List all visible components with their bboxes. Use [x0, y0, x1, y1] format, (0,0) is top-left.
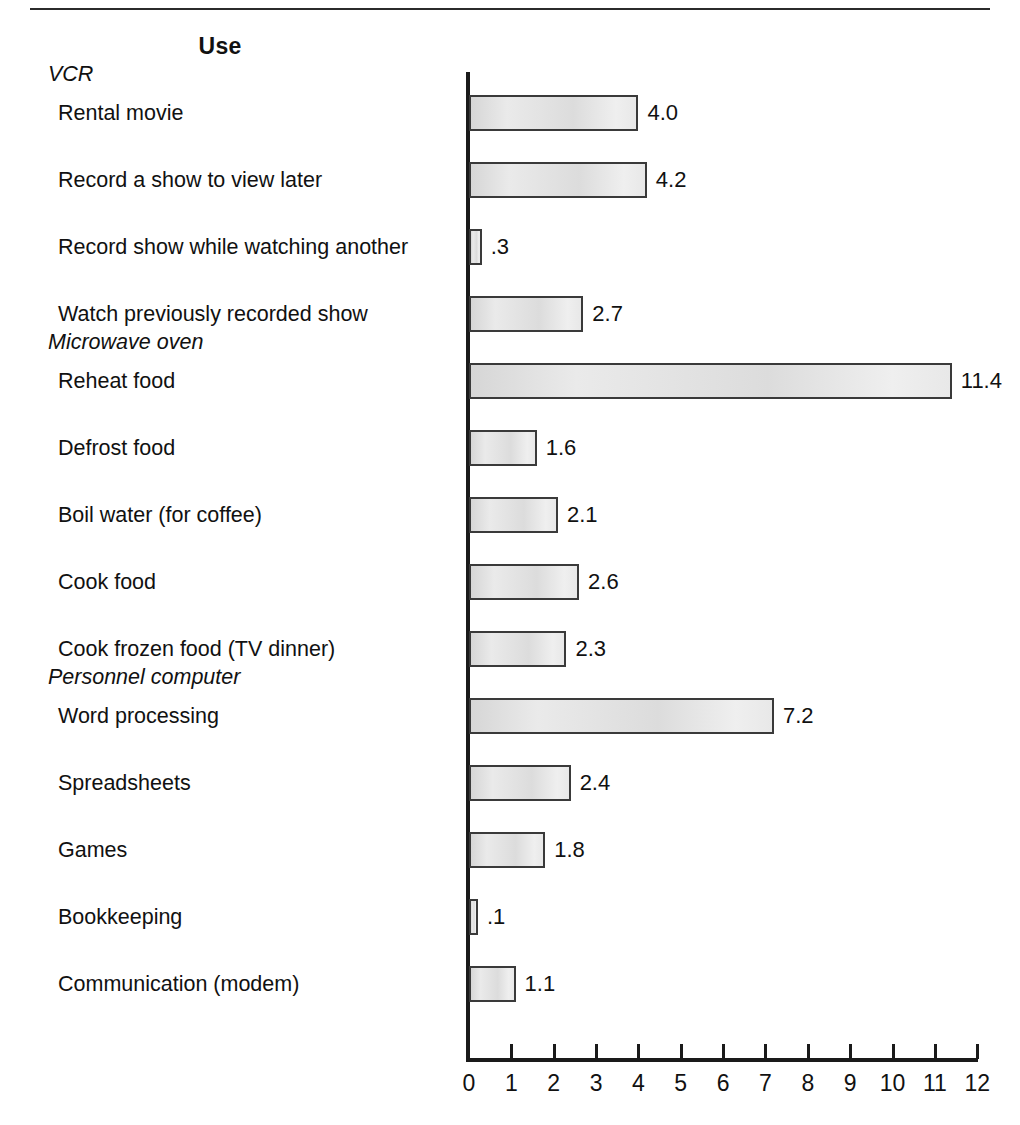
bar [469, 497, 558, 533]
x-axis-tick [510, 1044, 513, 1059]
bar [469, 95, 638, 131]
x-axis-tick-label: 7 [745, 1070, 785, 1097]
x-axis-tick-label: 1 [491, 1070, 531, 1097]
x-axis-tick [807, 1044, 810, 1059]
x-axis-tick-label: 9 [830, 1070, 870, 1097]
x-axis-tick [764, 1044, 767, 1059]
chart-row: Watch previously recorded show2.7 [0, 296, 1020, 332]
category-label: Games [58, 832, 458, 868]
bar-value-label: 2.7 [592, 296, 623, 332]
category-label: Spreadsheets [58, 765, 458, 801]
category-label: Watch previously recorded show [58, 296, 458, 332]
x-axis-tick-label: 10 [873, 1070, 913, 1097]
bar [469, 564, 579, 600]
x-axis-tick-label: 6 [703, 1070, 743, 1097]
chart-row: Word processing7.2 [0, 698, 1020, 734]
chart-row: Cook frozen food (TV dinner)2.3 [0, 631, 1020, 667]
category-label: Cook food [58, 564, 458, 600]
bar-value-label: 11.4 [961, 363, 1002, 399]
chart-row: Cook food2.6 [0, 564, 1020, 600]
bar-value-label: 4.0 [647, 95, 678, 131]
x-axis-tick-label: 5 [661, 1070, 701, 1097]
bar [469, 229, 482, 265]
chart-row: Reheat food11.4 [0, 363, 1020, 399]
x-axis-tick-label: 3 [576, 1070, 616, 1097]
category-label: Record a show to view later [58, 162, 458, 198]
x-axis-tick-label: 8 [788, 1070, 828, 1097]
bar-value-label: 2.3 [575, 631, 606, 667]
x-axis-tick [680, 1044, 683, 1059]
bar-value-label: 1.8 [554, 832, 585, 868]
chart-row: Bookkeeping.1 [0, 899, 1020, 935]
bar-value-label: 2.4 [580, 765, 611, 801]
x-axis-tick [976, 1044, 979, 1059]
group-header: Personnel computer [48, 665, 240, 690]
chart-row: Games1.8 [0, 832, 1020, 868]
category-label: Record show while watching another [58, 229, 458, 265]
category-label: Communication (modem) [58, 966, 458, 1002]
category-label: Rental movie [58, 95, 458, 131]
bar-value-label: .3 [491, 229, 509, 265]
chart-row: Boil water (for coffee)2.1 [0, 497, 1020, 533]
x-axis-tick-label: 11 [915, 1070, 955, 1097]
x-axis-tick-label: 12 [957, 1070, 997, 1097]
bar [469, 966, 516, 1002]
bar [469, 162, 647, 198]
group-header: Microwave oven [48, 330, 203, 355]
x-axis-tick [892, 1044, 895, 1059]
x-axis-tick-label: 2 [534, 1070, 574, 1097]
bar-value-label: 4.2 [656, 162, 687, 198]
chart-row: Communication (modem)1.1 [0, 966, 1020, 1002]
bar-value-label: 2.1 [567, 497, 598, 533]
category-label: Cook frozen food (TV dinner) [58, 631, 458, 667]
bar-value-label: 1.6 [546, 430, 577, 466]
category-label: Defrost food [58, 430, 458, 466]
bar-chart: VCRMicrowave ovenPersonnel computerRenta… [0, 0, 1020, 1125]
category-label: Reheat food [58, 363, 458, 399]
x-axis-tick-label: 4 [618, 1070, 658, 1097]
x-axis-tick [637, 1044, 640, 1059]
bar [469, 296, 583, 332]
bar-value-label: 1.1 [525, 966, 556, 1002]
x-axis-tick [595, 1044, 598, 1059]
x-axis-tick [934, 1044, 937, 1059]
bar [469, 430, 537, 466]
x-axis-tick [849, 1044, 852, 1059]
bar [469, 899, 478, 935]
x-axis-tick [553, 1044, 556, 1059]
bar-value-label: .1 [487, 899, 505, 935]
category-label: Boil water (for coffee) [58, 497, 458, 533]
bar [469, 765, 571, 801]
bar [469, 698, 774, 734]
bar [469, 363, 952, 399]
chart-row: Spreadsheets2.4 [0, 765, 1020, 801]
group-header: VCR [48, 62, 93, 87]
bar-value-label: 2.6 [588, 564, 619, 600]
chart-row: Record a show to view later4.2 [0, 162, 1020, 198]
chart-row: Defrost food1.6 [0, 430, 1020, 466]
chart-row: Rental movie4.0 [0, 95, 1020, 131]
category-label: Word processing [58, 698, 458, 734]
category-label: Bookkeeping [58, 899, 458, 935]
bar [469, 631, 566, 667]
x-axis-tick-label: 0 [449, 1070, 489, 1097]
bar-value-label: 7.2 [783, 698, 814, 734]
chart-row: Record show while watching another.3 [0, 229, 1020, 265]
x-axis-tick [722, 1044, 725, 1059]
bar [469, 832, 545, 868]
